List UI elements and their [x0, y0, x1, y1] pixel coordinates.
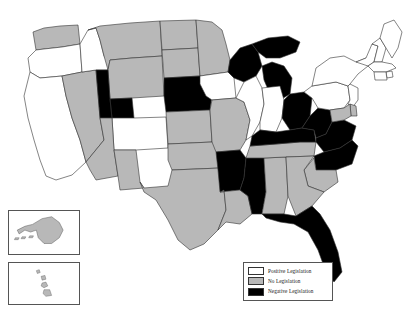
legend-item-positive: Positive Legislation — [248, 266, 328, 276]
state-CT — [374, 72, 387, 80]
us-choropleth-map: Positive Legislation No Legislation Nega… — [0, 0, 417, 318]
legend-item-negative: Negative Legislation — [248, 287, 328, 297]
legend-swatch-none — [248, 277, 264, 285]
legend-label-negative: Negative Legislation — [268, 289, 313, 294]
state-OK — [168, 142, 220, 170]
hawaii-inset — [8, 262, 80, 305]
state-MA — [368, 62, 396, 72]
legend-label-none: No Legislation — [268, 279, 300, 284]
alaska-shape-layer — [9, 211, 79, 254]
alaska-inset — [8, 210, 80, 255]
state-SD — [162, 48, 200, 78]
state-AK — [17, 217, 63, 244]
legend-item-none: No Legislation — [248, 276, 328, 286]
legend-label-positive: Positive Legislation — [268, 269, 311, 274]
map-legend: Positive Legislation No Legislation Nega… — [243, 262, 333, 301]
state-ND — [160, 20, 198, 50]
hawaii-shape-layer — [9, 263, 79, 304]
state-TX — [140, 168, 226, 250]
aleutian-islands — [14, 236, 33, 240]
state-IN — [260, 86, 284, 132]
state-RI — [386, 71, 393, 78]
state-MO — [210, 98, 250, 152]
state-HI — [36, 270, 51, 297]
legend-swatch-positive — [248, 267, 264, 275]
state-NM — [114, 150, 144, 190]
state-WY — [108, 56, 164, 99]
state-CO — [112, 117, 168, 150]
state-MN — [196, 20, 230, 76]
state-KS — [166, 110, 212, 144]
legend-swatch-negative — [248, 288, 264, 296]
state-AL — [262, 157, 288, 214]
